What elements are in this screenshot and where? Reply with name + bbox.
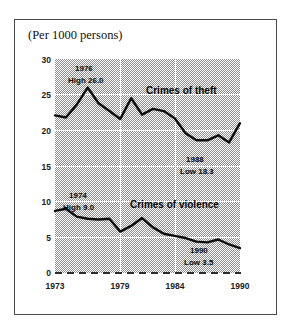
annotation-theft-low-year: 1988 <box>186 154 204 165</box>
x-tick-1979: 1979 <box>100 281 140 291</box>
annotation-violence-high-value: High 9.0 <box>63 202 94 213</box>
chart-title: (Per 1000 persons) <box>28 28 122 43</box>
annotation-violence-low-year: 1990 <box>190 245 208 256</box>
annotation-theft-high-value: High 26.0 <box>68 75 104 86</box>
annotation-violence-high-year: 1974 <box>69 190 87 201</box>
series-label-crimes-of-theft: Crimes of theft <box>146 85 217 96</box>
series-label-crimes-of-violence: Crimes of violence <box>130 199 219 210</box>
x-tick-1973: 1973 <box>35 281 75 291</box>
y-tick-25: 25 <box>27 90 51 100</box>
annotation-theft-low-value: Low 18.3 <box>180 166 214 177</box>
y-tick-15: 15 <box>27 162 51 172</box>
x-tick-1990: 1990 <box>220 281 260 291</box>
y-tick-30: 30 <box>27 55 51 65</box>
annotation-violence-low-value: Low 3.5 <box>184 257 213 268</box>
figure-root: (Per 1000 persons) 30 25 20 15 10 5 0 19… <box>0 0 291 333</box>
x-tick-1984: 1984 <box>155 281 195 291</box>
zero-baseline-dashed <box>55 272 241 274</box>
annotation-theft-high-year: 1976 <box>75 63 93 74</box>
series-line-crimes-of-violence <box>55 209 240 248</box>
y-tick-10: 10 <box>27 197 51 207</box>
y-tick-5: 5 <box>27 233 51 243</box>
y-tick-20: 20 <box>27 126 51 136</box>
y-tick-0: 0 <box>27 268 51 278</box>
